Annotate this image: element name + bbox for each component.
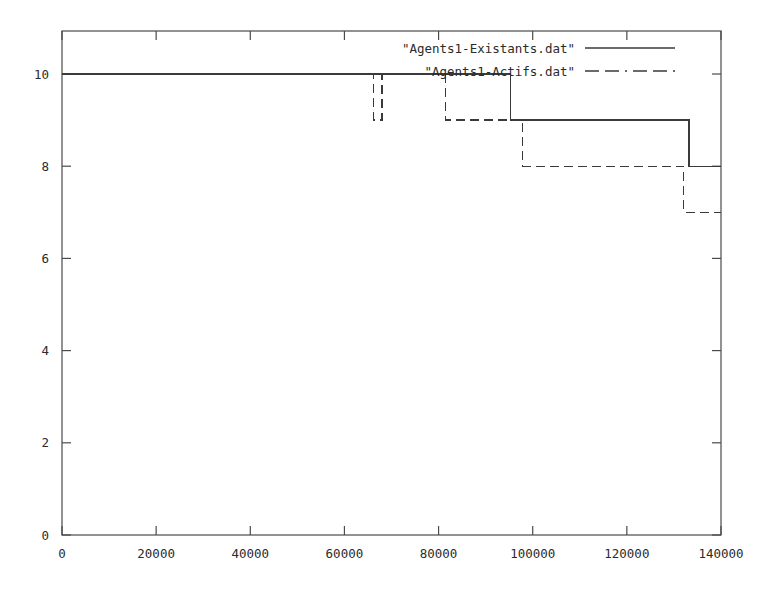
- chart-canvas: 0246810 02000040000600008000010000012000…: [0, 0, 779, 603]
- y-tick-label: 2: [41, 435, 49, 450]
- x-tick-label: 80000: [420, 546, 458, 561]
- line-chart: 0246810 02000040000600008000010000012000…: [0, 0, 779, 603]
- x-tick-label: 40000: [231, 546, 269, 561]
- x-tick-label: 0: [58, 546, 66, 561]
- data-series-group: [62, 74, 721, 212]
- y-tick-label: 10: [34, 67, 49, 82]
- y-tick-label: 8: [41, 159, 49, 174]
- x-tick-label: 100000: [510, 546, 555, 561]
- legend-label-0: "Agents1-Existants.dat": [402, 41, 575, 56]
- x-axis: 020000400006000080000100000120000140000: [58, 31, 743, 561]
- y-tick-label: 0: [41, 528, 49, 543]
- series-line-1: [62, 74, 721, 212]
- y-tick-label: 4: [41, 343, 49, 358]
- legend-label-1: "Agents1-Actifs.dat": [424, 64, 575, 79]
- y-tick-label: 6: [41, 251, 49, 266]
- chart-legend: "Agents1-Existants.dat""Agents1-Actifs.d…: [402, 41, 675, 79]
- plot-frame: [62, 31, 721, 535]
- series-line-0: [62, 74, 721, 166]
- x-tick-label: 120000: [604, 546, 649, 561]
- x-tick-label: 20000: [137, 546, 175, 561]
- x-tick-label: 60000: [326, 546, 364, 561]
- x-tick-label: 140000: [698, 546, 743, 561]
- y-axis: 0246810: [34, 67, 721, 543]
